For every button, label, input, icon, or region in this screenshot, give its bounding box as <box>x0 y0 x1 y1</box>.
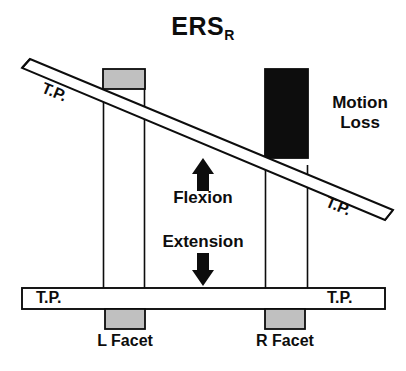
tp-label-lower-right: T.P. <box>327 289 353 308</box>
motion-loss-block <box>265 69 308 158</box>
motion-loss-line-2: Loss <box>318 113 402 133</box>
figure-canvas: ERSR <box>0 0 406 371</box>
motion-loss-line-1: Motion <box>332 93 388 112</box>
flexion-arrow-head <box>192 158 214 174</box>
extension-label: Extension <box>0 232 406 252</box>
left-lower-facet <box>105 309 145 329</box>
motion-loss-label: MotionLoss <box>318 93 402 133</box>
extension-arrow-head <box>192 270 214 286</box>
extension-arrow-shaft <box>197 253 209 272</box>
flexion-arrow <box>192 158 214 191</box>
flexion-label: Flexion <box>0 188 406 208</box>
right-lower-facet <box>265 309 305 329</box>
extension-arrow <box>192 253 214 286</box>
right-facet-label: R Facet <box>238 332 332 351</box>
left-facet-label: L Facet <box>78 332 172 351</box>
diagram-artwork <box>0 0 406 371</box>
left-upper-facet <box>103 69 145 89</box>
tp-label-lower-left: T.P. <box>36 289 62 308</box>
